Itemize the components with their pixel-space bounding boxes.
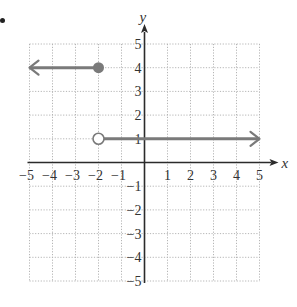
x-tick-label: −4 <box>42 168 57 183</box>
closed-endpoint-icon <box>93 62 104 73</box>
x-tick-label: 4 <box>233 168 240 183</box>
x-tick-label: −3 <box>65 168 80 183</box>
x-tick-label: 5 <box>256 168 263 183</box>
y-tick-label: −3 <box>127 227 142 242</box>
y-tick-label: 2 <box>135 108 142 123</box>
y-tick-label: 5 <box>135 37 142 52</box>
x-tick-label: −2 <box>88 168 103 183</box>
piece-right <box>93 132 260 146</box>
x-tick-label: 1 <box>164 168 171 183</box>
y-tick-label: −4 <box>127 250 142 265</box>
y-axis-arrow-icon <box>141 24 148 33</box>
x-axis-label: x <box>281 155 289 171</box>
piece-left <box>30 61 105 75</box>
piecewise-function-graph: −5−4−3−2−112345−5−4−3−2−112345 x y <box>0 0 297 307</box>
y-tick-label: −1 <box>127 179 142 194</box>
x-tick-label: −5 <box>19 168 34 183</box>
y-tick-label: −5 <box>127 274 142 289</box>
open-endpoint-icon <box>93 133 104 144</box>
y-tick-label: 4 <box>135 61 142 76</box>
x-tick-label: 2 <box>187 168 194 183</box>
y-tick-label: 3 <box>135 84 142 99</box>
y-tick-label: −2 <box>127 203 142 218</box>
x-tick-label: −1 <box>111 168 126 183</box>
axes <box>28 24 279 283</box>
y-axis-label: y <box>138 9 147 25</box>
x-tick-label: 3 <box>210 168 217 183</box>
